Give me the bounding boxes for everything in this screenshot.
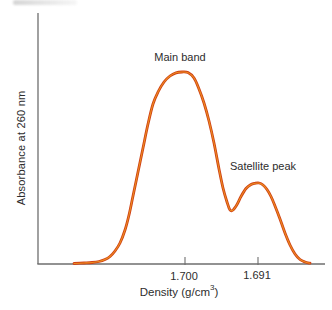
x-tick-label-1691: 1.691 xyxy=(243,270,271,281)
figure-canvas: Absorbance at 260 nm Main band Satellite… xyxy=(0,0,332,310)
annotation-satellite-peak: Satellite peak xyxy=(230,161,296,172)
x-axis-label-text: Density (g/cm xyxy=(140,286,210,298)
x-axis-label-close: ) xyxy=(214,286,218,298)
x-tick-label-1700: 1.700 xyxy=(170,271,198,282)
superscript-3: 3 xyxy=(210,283,214,292)
plot-area xyxy=(0,0,332,310)
annotation-main-band: Main band xyxy=(154,52,205,63)
x-axis-label: Density (g/cm3) xyxy=(140,285,219,298)
y-axis-label: Absorbance at 260 nm xyxy=(16,91,27,206)
